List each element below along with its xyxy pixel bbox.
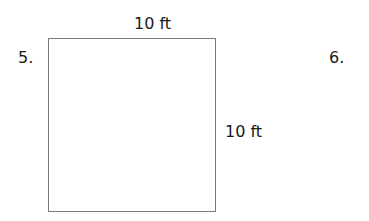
square-shape bbox=[48, 38, 216, 212]
right-dimension-label: 10 ft bbox=[225, 123, 262, 141]
top-dimension-label: 10 ft bbox=[134, 15, 171, 33]
problem-number-5: 5. bbox=[18, 49, 33, 67]
problem-number-6: 6. bbox=[329, 49, 344, 67]
